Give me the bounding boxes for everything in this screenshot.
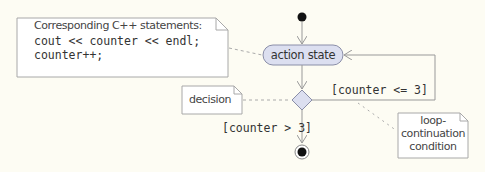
loop-note-line-1: loop-	[398, 114, 468, 127]
guard-exit: [counter > 3]	[222, 121, 312, 135]
decision-note-text: decision	[182, 93, 238, 106]
final-node	[298, 148, 307, 157]
cpp-note-line-1: cout << counter << endl;	[34, 34, 200, 48]
cpp-note-connector	[229, 48, 262, 55]
loop-note-line-3: condition	[398, 140, 468, 153]
cpp-note-heading: Corresponding C++ statements:	[34, 19, 202, 32]
action-state-label: action state	[263, 45, 343, 65]
loop-note-line-2: continuation	[398, 127, 468, 140]
initial-node	[298, 13, 307, 22]
loop-note-connector	[358, 103, 397, 131]
cpp-note-line-2: counter++;	[34, 48, 103, 62]
guard-continue: [counter <= 3]	[331, 83, 428, 97]
decision-node	[292, 90, 312, 110]
activity-diagram: Corresponding C++ statements: cout << co…	[0, 0, 485, 172]
